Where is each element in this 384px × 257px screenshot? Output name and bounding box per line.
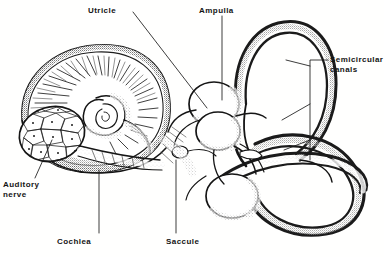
label-semicircular-canals: Semicircular canals bbox=[330, 55, 383, 74]
ampulla-sac bbox=[196, 112, 240, 150]
label-ampulla: Ampulla bbox=[199, 6, 234, 16]
label-utricle: Utricle bbox=[88, 6, 116, 16]
label-cochlea: Cochlea bbox=[57, 237, 91, 247]
label-saccule: Saccule bbox=[166, 237, 199, 247]
leader-canal-1 bbox=[286, 60, 310, 66]
leader-canal-2 bbox=[282, 104, 310, 120]
saccule-sac bbox=[206, 174, 258, 218]
inner-ear-diagram bbox=[0, 0, 384, 257]
label-auditory-nerve: Auditory nerve bbox=[3, 180, 40, 199]
figure-canvas: Utricle Ampulla Semicircular canals Audi… bbox=[0, 0, 384, 257]
